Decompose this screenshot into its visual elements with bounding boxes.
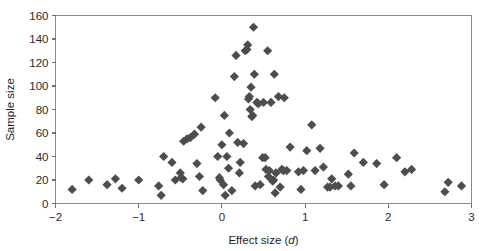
data-point	[102, 180, 111, 189]
data-point	[117, 184, 126, 193]
data-point	[221, 191, 230, 200]
y-tick-label: 80	[36, 104, 49, 116]
data-point	[270, 70, 279, 79]
data-point	[380, 180, 389, 189]
x-tick-label: −2	[49, 211, 62, 223]
data-point	[440, 187, 449, 196]
data-point	[227, 186, 236, 195]
x-tick-label: −1	[132, 211, 145, 223]
data-point	[266, 98, 275, 107]
data-point	[310, 166, 319, 175]
data-point	[211, 93, 220, 102]
y-tick-label: 60	[36, 127, 49, 139]
data-point	[68, 185, 77, 194]
y-tick-label: 140	[29, 33, 48, 45]
data-point	[296, 185, 305, 194]
data-point	[220, 111, 229, 120]
data-point	[315, 144, 324, 153]
data-point	[246, 83, 255, 92]
data-point	[84, 175, 93, 184]
data-point	[286, 143, 295, 152]
y-tick-label: 0	[42, 198, 48, 210]
x-tick-label: 1	[302, 211, 308, 223]
data-point	[319, 162, 328, 171]
data-point	[195, 172, 204, 181]
x-tick-label: 2	[385, 211, 391, 223]
y-tick-label: 120	[29, 57, 48, 69]
data-point	[302, 146, 311, 155]
plot-border	[56, 16, 472, 204]
data-point	[134, 175, 143, 184]
scatter-plot-figure: 020406080100120140160 −2−10123 Sample si…	[0, 0, 492, 251]
data-point	[249, 23, 258, 32]
data-point	[280, 93, 289, 102]
data-point	[167, 158, 176, 167]
data-points-layer	[68, 23, 467, 200]
data-point	[344, 170, 353, 179]
data-point	[444, 178, 453, 187]
data-point	[392, 153, 401, 162]
y-tick-label: 40	[36, 151, 49, 163]
y-tick-label: 20	[36, 174, 49, 186]
data-point	[239, 139, 248, 148]
y-axis-title: Sample size	[4, 78, 16, 141]
data-point	[159, 152, 168, 161]
data-point	[192, 159, 201, 168]
y-axis-ticks: 020406080100120140160	[29, 10, 55, 210]
data-point	[346, 181, 355, 190]
data-point	[250, 70, 259, 79]
data-point	[236, 158, 245, 167]
data-point	[111, 174, 120, 183]
data-point	[350, 148, 359, 157]
data-point	[197, 123, 206, 132]
data-point	[457, 181, 466, 190]
data-point	[231, 51, 240, 60]
data-point	[235, 168, 244, 177]
data-point	[263, 46, 272, 55]
data-point	[224, 164, 233, 173]
plot-frame	[56, 16, 472, 204]
data-point	[225, 128, 234, 137]
data-point	[157, 191, 166, 200]
data-point	[198, 186, 207, 195]
x-axis-title: Effect size (d)	[228, 234, 298, 246]
data-point	[213, 152, 222, 161]
x-tick-label: 0	[219, 211, 225, 223]
data-point	[230, 72, 239, 81]
x-axis-ticks: −2−10123	[49, 204, 475, 223]
x-tick-label: 3	[468, 211, 474, 223]
data-point	[307, 120, 316, 129]
data-point	[154, 181, 163, 190]
data-point	[222, 152, 231, 161]
data-point	[217, 140, 226, 149]
data-point	[359, 158, 368, 167]
y-tick-label: 100	[29, 80, 48, 92]
data-point	[372, 159, 381, 168]
y-tick-label: 160	[29, 10, 48, 22]
chart-canvas: 020406080100120140160 −2−10123 Sample si…	[0, 0, 492, 251]
